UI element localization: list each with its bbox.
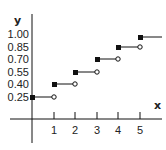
closed-point-icon — [116, 45, 121, 50]
y-tick-label: 0.40 — [8, 78, 29, 90]
x-tick-label: 2 — [72, 124, 78, 136]
x-ticks — [54, 112, 140, 119]
x-tick-label: 1 — [51, 124, 57, 136]
open-endpoints — [52, 45, 142, 99]
x-tick-label: 3 — [94, 124, 100, 136]
closed-point-icon — [138, 35, 143, 40]
y-tick-label: 1.00 — [8, 28, 29, 40]
y-tick-label: 0.25 — [8, 91, 29, 103]
open-point-icon — [116, 57, 120, 61]
x-tick-label: 5 — [137, 124, 143, 136]
closed-point-icon — [73, 70, 78, 75]
y-tick-label: 0.70 — [8, 53, 29, 65]
closed-point-icon — [95, 57, 100, 62]
open-point-icon — [95, 70, 99, 74]
closed-point-icon — [52, 82, 57, 87]
open-point-icon — [73, 82, 77, 86]
y-tick-label: 0.85 — [8, 41, 29, 53]
open-point-icon — [52, 95, 56, 99]
x-tick-label: 4 — [115, 124, 121, 136]
y-tick-label: 0.55 — [8, 66, 29, 78]
closed-point-icon — [30, 95, 35, 100]
open-point-icon — [138, 45, 142, 49]
x-axis-label: x — [154, 99, 161, 112]
step-chart: y x 1.00 0.85 0.70 0.55 0.40 0.25 1 2 3 … — [0, 0, 166, 150]
y-axis-label: y — [14, 14, 21, 27]
closed-endpoints — [30, 35, 143, 100]
